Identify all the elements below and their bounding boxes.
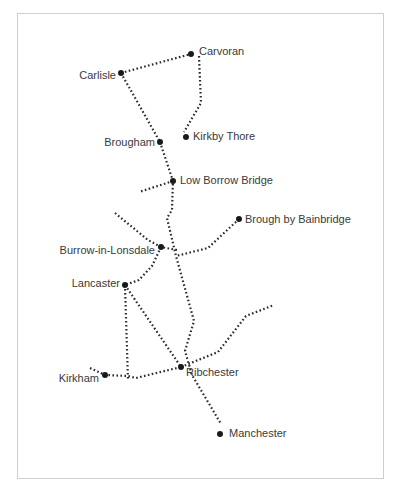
- site-burrow-in-lonsdale: Burrow-in-Lonsdale: [60, 244, 164, 256]
- site-brougham: Brougham: [104, 136, 163, 148]
- site-label: Kirkham: [59, 372, 99, 384]
- route-ribchester-east: [181, 305, 274, 367]
- site-lancaster: Lancaster: [72, 277, 128, 289]
- site-marker-icon: [102, 372, 108, 378]
- site-marker-icon: [236, 216, 242, 222]
- site-kirkby-thore: Kirkby Thore: [183, 130, 255, 142]
- site-label: Brougham: [104, 136, 155, 148]
- site-marker-icon: [183, 134, 189, 140]
- site-marker-icon: [118, 70, 124, 76]
- site-ribchester: Ribchester: [178, 364, 239, 378]
- site-brough-by-bainbridge: Brough by Bainbridge: [236, 213, 351, 225]
- site-label: Lancaster: [72, 277, 121, 289]
- roman-roads-map: CarlisleCarvoranKirkby ThoreBroughamLow …: [0, 0, 397, 495]
- site-label: Carvoran: [199, 45, 244, 57]
- site-marker-icon: [170, 178, 176, 184]
- route-carlisle-brougham: [121, 73, 160, 142]
- site-marker-icon: [217, 431, 223, 437]
- route-bainbridge-main: [176, 219, 239, 256]
- site-carvoran: Carvoran: [188, 45, 244, 57]
- site-marker-icon: [178, 364, 184, 370]
- site-label: Manchester: [229, 427, 287, 439]
- sites-layer: CarlisleCarvoranKirkby ThoreBroughamLow …: [59, 45, 351, 439]
- site-marker-icon: [188, 51, 194, 57]
- site-label: Kirkby Thore: [193, 130, 255, 142]
- route-lancaster-ribchester: [125, 285, 181, 367]
- site-label: Burrow-in-Lonsdale: [60, 244, 155, 256]
- site-low-borrow-bridge: Low Borrow Bridge: [170, 174, 273, 186]
- site-label: Ribchester: [186, 366, 239, 378]
- site-marker-icon: [157, 139, 163, 145]
- route-lancaster-south: [125, 285, 128, 381]
- site-carlisle: Carlisle: [79, 69, 124, 81]
- site-label: Carlisle: [79, 69, 116, 81]
- site-manchester: Manchester: [217, 427, 287, 439]
- route-low-borrow-bridge-west: [139, 181, 173, 192]
- route-carvoran-kirkby-thore: [184, 56, 201, 132]
- site-marker-icon: [122, 282, 128, 288]
- site-marker-icon: [158, 244, 164, 250]
- site-label: Brough by Bainbridge: [245, 213, 351, 225]
- route-carlisle-carvoran: [121, 54, 191, 73]
- site-label: Low Borrow Bridge: [180, 174, 273, 186]
